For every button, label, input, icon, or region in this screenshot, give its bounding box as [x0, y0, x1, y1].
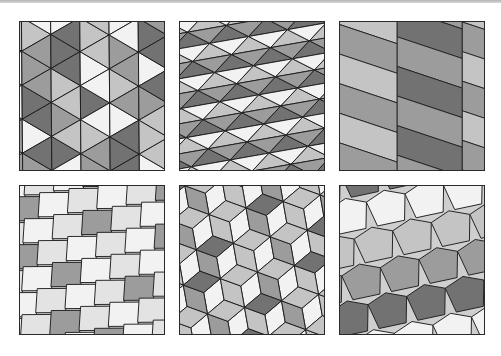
tiling-pattern-bands: [180, 22, 324, 170]
tiling-pattern-triangles: [20, 22, 164, 170]
tiling-panel-b: triangle band tiling: [179, 21, 325, 171]
tiling-pattern-rhombi: [180, 186, 324, 334]
tiling-pattern-pentagons: [340, 186, 484, 334]
tiling-panel-c: parallelogram strip tiling: [339, 21, 485, 171]
top-edge-bar: [0, 0, 501, 3]
tiling-panel-a: twisted-triangle tiling: [19, 21, 165, 171]
tiling-panel-d: quadrilateral brick tiling: [19, 185, 165, 335]
tiling-pattern-bricks: [20, 186, 164, 334]
tiling-panel-e: rhombus star tiling: [179, 185, 325, 335]
tiling-pattern-strips: [340, 22, 484, 170]
tiling-panel-f: pentagonal tiling: [339, 185, 485, 335]
